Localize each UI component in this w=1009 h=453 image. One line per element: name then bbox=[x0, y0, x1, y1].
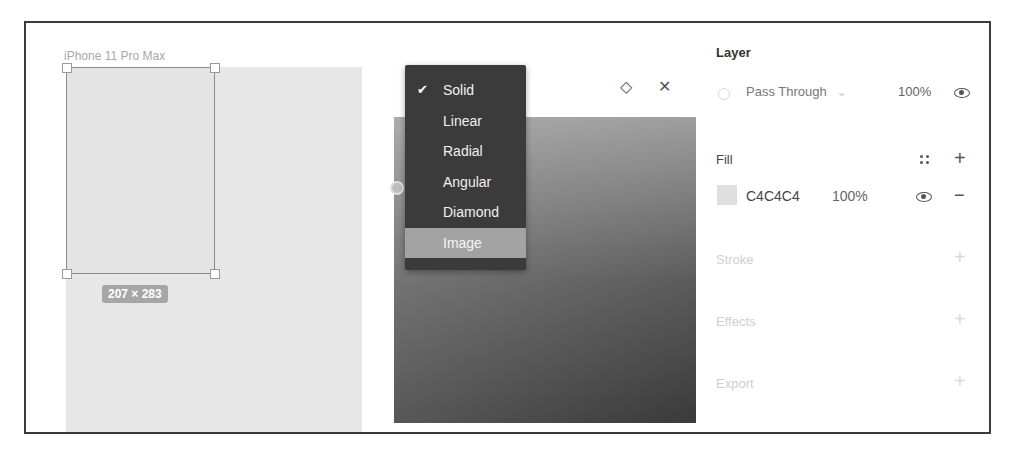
remove-fill-button[interactable]: − bbox=[954, 187, 965, 203]
eye-icon[interactable] bbox=[954, 88, 970, 98]
fill-type-dropdown: ✔ Solid Linear Radial Angular Diamond Im… bbox=[405, 65, 526, 270]
size-badge: 207 × 283 bbox=[102, 285, 168, 303]
fill-type-label: Solid bbox=[443, 82, 474, 98]
fill-type-label: Diamond bbox=[443, 204, 499, 220]
fill-section-title: Fill bbox=[716, 152, 733, 167]
blend-mode-icon bbox=[718, 88, 730, 100]
selected-rectangle[interactable] bbox=[66, 67, 215, 274]
style-icon[interactable]: ◇ bbox=[620, 77, 632, 96]
add-export-button[interactable]: + bbox=[954, 373, 966, 389]
properties-panel: Layer Pass Through ⌄ 100% Fill + C4C4C4 … bbox=[696, 23, 989, 432]
fill-type-image[interactable]: Image bbox=[405, 228, 526, 259]
fill-type-label: Radial bbox=[443, 143, 483, 159]
fill-type-solid[interactable]: ✔ Solid bbox=[405, 75, 526, 106]
fill-visibility-eye-icon[interactable] bbox=[916, 192, 932, 202]
color-stop-handle[interactable] bbox=[390, 181, 404, 195]
styles-grid-icon[interactable] bbox=[920, 155, 930, 165]
stroke-section-title: Stroke bbox=[716, 252, 754, 267]
close-icon[interactable]: ✕ bbox=[658, 77, 671, 96]
layer-section-title: Layer bbox=[716, 45, 751, 60]
blend-mode-select[interactable]: Pass Through ⌄ bbox=[746, 84, 847, 99]
resize-handle-bottom-right[interactable] bbox=[210, 269, 220, 279]
resize-handle-top-right[interactable] bbox=[210, 63, 220, 73]
fill-type-radial[interactable]: Radial bbox=[405, 136, 526, 167]
fill-color-swatch[interactable] bbox=[717, 185, 737, 205]
frame-label[interactable]: iPhone 11 Pro Max bbox=[64, 49, 165, 63]
chevron-down-icon: ⌄ bbox=[836, 84, 847, 99]
fill-type-label: Image bbox=[443, 235, 482, 251]
resize-handle-top-left[interactable] bbox=[62, 63, 72, 73]
effects-section-title: Effects bbox=[716, 314, 756, 329]
fill-hex-input[interactable]: C4C4C4 bbox=[746, 188, 800, 204]
export-section-title: Export bbox=[716, 376, 754, 391]
fill-type-label: Angular bbox=[443, 174, 491, 190]
fill-opacity-input[interactable]: 100% bbox=[832, 188, 868, 204]
fill-type-label: Linear bbox=[443, 113, 482, 129]
fill-type-linear[interactable]: Linear bbox=[405, 106, 526, 137]
add-effect-button[interactable]: + bbox=[954, 311, 966, 327]
add-fill-button[interactable]: + bbox=[954, 150, 966, 166]
resize-handle-bottom-left[interactable] bbox=[62, 269, 72, 279]
fill-type-angular[interactable]: Angular bbox=[405, 167, 526, 198]
blend-mode-value: Pass Through bbox=[746, 84, 827, 99]
check-icon: ✔ bbox=[417, 75, 428, 105]
canvas[interactable]: iPhone 11 Pro Max 207 × 283 bbox=[26, 23, 394, 432]
layer-opacity-input[interactable]: 100% bbox=[898, 84, 931, 99]
app-frame: iPhone 11 Pro Max 207 × 283 ◇ ✕ ✔ Solid … bbox=[24, 21, 991, 434]
fill-type-diamond[interactable]: Diamond bbox=[405, 197, 526, 228]
add-stroke-button[interactable]: + bbox=[954, 249, 966, 265]
